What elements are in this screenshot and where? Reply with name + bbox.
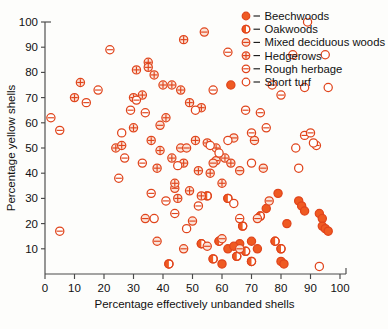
data-point — [292, 144, 300, 152]
data-point — [247, 159, 255, 167]
legend-marker-icon — [242, 52, 250, 60]
data-point — [262, 124, 270, 132]
data-point — [256, 109, 264, 117]
data-point — [209, 86, 217, 94]
data-point — [206, 141, 214, 149]
x-tick-label: 80 — [275, 282, 288, 294]
data-point — [141, 109, 149, 117]
data-point — [324, 227, 332, 235]
data-point — [209, 255, 217, 263]
data-point — [259, 164, 267, 172]
data-point — [115, 174, 123, 182]
data-point — [132, 96, 140, 104]
data-point — [183, 225, 191, 233]
data-point — [171, 209, 179, 217]
legend-item-hedgerows: Hedgerows — [242, 50, 322, 62]
y-tick-label: 30 — [25, 192, 38, 204]
data-point — [253, 214, 261, 222]
y-tick-label: 10 — [25, 243, 38, 255]
data-point — [280, 260, 288, 268]
data-point — [82, 99, 90, 107]
data-point — [153, 164, 161, 172]
data-point — [165, 260, 173, 268]
data-point — [247, 257, 255, 265]
data-point — [236, 167, 244, 175]
data-point — [168, 81, 176, 89]
data-point — [180, 245, 188, 253]
data-point — [191, 106, 199, 114]
data-point — [118, 129, 126, 137]
legend-item-mixed-deciduous-woods: Mixed deciduous woods — [242, 36, 385, 48]
legend-marker-icon — [242, 39, 250, 47]
data-point — [206, 169, 214, 177]
x-tick-label: 10 — [68, 282, 81, 294]
legend-label: Mixed deciduous woods — [265, 36, 386, 48]
x-tick-label: 30 — [127, 282, 140, 294]
data-point — [247, 237, 255, 245]
data-point — [171, 179, 179, 187]
data-point — [227, 159, 235, 167]
legend-item-short-turf: Short turf — [242, 76, 312, 88]
x-tick-label: 100 — [330, 282, 349, 294]
data-point — [200, 28, 208, 36]
legend-item-rough-herbage: Rough herbage — [242, 63, 342, 75]
data-point — [156, 121, 164, 129]
data-point — [70, 94, 78, 102]
legend-label: Short turf — [265, 76, 312, 88]
data-point — [138, 159, 146, 167]
data-point — [185, 99, 193, 107]
data-point — [242, 106, 250, 114]
data-point — [236, 245, 244, 253]
y-tick-label: 20 — [25, 218, 38, 230]
data-point — [47, 114, 55, 122]
legend-label: Rough herbage — [265, 63, 343, 75]
legend-marker-icon — [242, 78, 250, 86]
data-point — [194, 202, 202, 210]
data-point — [174, 162, 182, 170]
data-point — [295, 164, 303, 172]
legend-marker-icon — [242, 65, 250, 73]
x-tick-label: 20 — [98, 282, 111, 294]
y-tick-label: 100 — [19, 16, 38, 28]
data-point — [197, 192, 205, 200]
legend-label: Beechwoods — [265, 10, 330, 22]
data-point — [265, 197, 273, 205]
data-point — [150, 214, 158, 222]
data-point — [209, 159, 217, 167]
data-point — [218, 179, 226, 187]
data-point — [106, 46, 114, 54]
data-point — [224, 48, 232, 56]
data-point — [274, 189, 282, 197]
y-tick-label: 60 — [25, 117, 38, 129]
data-point — [126, 106, 134, 114]
data-point — [177, 86, 185, 94]
data-point — [194, 167, 202, 175]
data-point — [309, 139, 317, 147]
data-point — [159, 81, 167, 89]
data-point — [277, 91, 285, 99]
data-point — [301, 207, 309, 215]
x-tick-label: 60 — [216, 282, 229, 294]
data-point — [144, 63, 152, 71]
legend-label: Hedgerows — [265, 50, 322, 62]
data-point — [156, 146, 164, 154]
y-tick-label: 50 — [25, 142, 38, 154]
data-point — [218, 235, 226, 243]
chart-legend: BeechwoodsOakwoodsMixed deciduous woodsH… — [242, 10, 385, 88]
data-point — [183, 144, 191, 152]
legend-item-beechwoods: Beechwoods — [242, 10, 329, 22]
data-point — [227, 81, 235, 89]
data-point — [277, 245, 285, 253]
y-tick-label: 40 — [25, 167, 38, 179]
data-point — [247, 129, 255, 137]
data-point — [162, 197, 170, 205]
legend-item-oakwoods: Oakwoods — [242, 23, 318, 35]
data-point — [236, 214, 244, 222]
data-point — [315, 262, 323, 270]
x-tick-label: 40 — [157, 282, 170, 294]
legend-label: Oakwoods — [265, 23, 319, 35]
data-point — [191, 136, 199, 144]
chart-canvas: 1020304050607080901000102030405060708090… — [0, 0, 388, 329]
data-point — [56, 126, 64, 134]
data-point — [174, 194, 182, 202]
